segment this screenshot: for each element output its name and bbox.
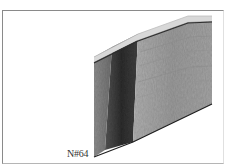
panel-label: N#64 bbox=[67, 148, 88, 159]
seismic-volume-figure bbox=[0, 0, 228, 168]
